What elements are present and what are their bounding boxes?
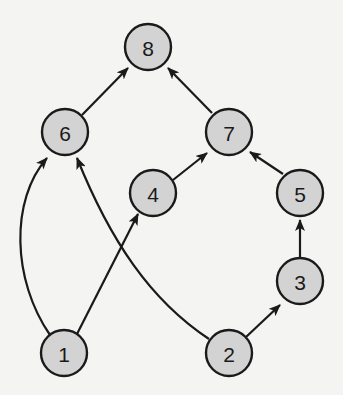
node-label: 5: [294, 183, 306, 206]
node-label: 2: [223, 343, 235, 366]
edge-2-to-3: [246, 305, 280, 337]
node-4: 4: [130, 170, 176, 216]
node-2: 2: [206, 330, 252, 376]
edge-5-to-7: [250, 152, 283, 174]
edge-4-to-7: [173, 153, 207, 180]
node-1: 1: [41, 330, 87, 376]
node-label: 1: [58, 343, 70, 366]
directed-graph: 12345678: [0, 0, 343, 395]
node-6: 6: [42, 109, 88, 155]
node-label: 6: [59, 122, 71, 145]
node-label: 8: [142, 37, 154, 60]
edge-6-to-8: [82, 68, 128, 115]
node-7: 7: [206, 109, 252, 155]
edge-7-to-8: [168, 68, 212, 113]
node-3: 3: [277, 258, 323, 304]
node-label: 4: [147, 183, 159, 206]
node-5: 5: [277, 170, 323, 216]
edge-1-to-4: [77, 214, 138, 334]
edge-1-to-6: [20, 158, 50, 335]
node-label: 3: [294, 271, 306, 294]
node-8: 8: [125, 24, 171, 70]
node-label: 7: [223, 122, 235, 145]
